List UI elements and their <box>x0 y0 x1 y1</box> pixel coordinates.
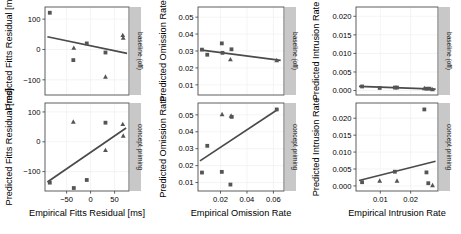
panel-intrusion-priming: 0.0000.0050.0100.0150.0200.010.02concept… <box>311 98 453 218</box>
y-tick-label: 0.015 <box>333 31 352 40</box>
data-point-square <box>427 181 431 185</box>
data-point-square <box>228 183 232 187</box>
plot-background <box>356 7 438 95</box>
y-axis-title: Predicted Fitts Residual [ms] <box>4 89 14 206</box>
y-tick-label: 0.05 <box>178 13 193 22</box>
data-point-square <box>393 170 397 174</box>
panel-fitts-priming: −1000100−50050concept primingPredicted F… <box>4 89 145 218</box>
panel-omission-baseline: 0.010.020.030.040.05baseline (off)Predic… <box>158 0 299 102</box>
figure-panel-grid: −1000100baseline (off)Predicted Fitts Re… <box>0 0 461 234</box>
data-point-square <box>220 41 224 45</box>
y-tick-label: 0.010 <box>333 49 352 58</box>
plot-background <box>45 103 129 191</box>
data-point-square <box>205 144 209 148</box>
data-point-square <box>71 58 75 62</box>
data-point-square <box>220 170 224 174</box>
y-tick-label: 0.015 <box>333 131 352 140</box>
y-tick-label: −100 <box>23 167 40 176</box>
y-tick-label: 0 <box>36 137 40 146</box>
panel-column-svg: 0.010.020.030.040.05baseline (off)Predic… <box>154 0 308 234</box>
y-axis-title: Predicted Omission Rate <box>158 0 168 102</box>
data-point-square <box>425 170 429 174</box>
x-tick-label: 0 <box>88 195 92 204</box>
x-tick-label: 0.06 <box>266 195 281 204</box>
y-tick-label: 100 <box>28 15 41 24</box>
y-tick-label: 0.020 <box>333 12 352 21</box>
data-point-square <box>395 86 399 90</box>
y-axis-title: Predicted Omission Rate <box>158 96 168 198</box>
y-tick-label: 0.04 <box>178 127 193 136</box>
y-axis-title: Predicted Intrusion Rate <box>311 2 321 101</box>
y-tick-label: 0.02 <box>178 161 193 170</box>
y-tick-label: 0.02 <box>178 64 193 73</box>
y-tick-label: 0.03 <box>178 144 193 153</box>
strip-label-concept-priming: concept priming <box>136 124 144 171</box>
strip-label-baseline: baseline (off) <box>291 32 299 70</box>
data-point-square <box>104 121 108 125</box>
data-point-square <box>229 47 233 51</box>
data-point-square <box>361 85 365 89</box>
y-tick-label: 0.01 <box>178 81 193 90</box>
panel-omission-priming: 0.010.020.030.040.050.020.040.06concept … <box>158 96 299 218</box>
data-point-square <box>423 108 427 112</box>
x-axis-title: Empirical Intrusion Rate <box>349 208 447 218</box>
y-tick-label: 0.000 <box>333 86 352 95</box>
y-tick-label: 0.05 <box>178 111 193 120</box>
y-tick-label: −100 <box>23 76 40 85</box>
y-tick-label: 0.005 <box>333 68 352 77</box>
panel-column-svg: −1000100baseline (off)Predicted Fitts Re… <box>0 0 154 234</box>
y-tick-label: 0.04 <box>178 30 193 39</box>
y-tick-label: 100 <box>28 108 41 117</box>
panel-column-svg: 0.0000.0050.0100.0150.020baseline (off)P… <box>307 0 461 234</box>
y-tick-label: 0 <box>36 45 40 54</box>
y-tick-label: 0.020 <box>333 114 352 123</box>
plot-background <box>198 103 284 191</box>
data-point-square <box>220 51 224 55</box>
data-point-square <box>274 108 278 112</box>
data-point-square <box>104 51 108 55</box>
y-tick-label: 0.005 <box>333 165 352 174</box>
data-point-square <box>48 11 52 15</box>
data-point-square <box>85 178 89 182</box>
x-axis-title: Empirical Omission Rate <box>190 208 291 218</box>
strip-label-baseline: baseline (off) <box>136 32 144 70</box>
panel-column-1: −1000100baseline (off)Predicted Fitts Re… <box>0 0 154 234</box>
panel-fitts-baseline: −1000100baseline (off)Predicted Fitts Re… <box>4 0 144 109</box>
data-point-square <box>200 48 204 52</box>
x-tick-label: 0.04 <box>239 195 254 204</box>
x-tick-label: 0.01 <box>373 195 388 204</box>
data-point-square <box>361 180 365 184</box>
strip-label-concept-priming: concept priming <box>445 124 453 171</box>
x-tick-label: −50 <box>60 195 73 204</box>
y-axis-title: Predicted Intrusion Rate <box>311 98 321 197</box>
panel-column-2: 0.010.020.030.040.05baseline (off)Predic… <box>154 0 308 234</box>
x-tick-label: 0.02 <box>213 195 228 204</box>
data-point-square <box>205 53 209 57</box>
data-point-square <box>428 87 432 91</box>
data-point-square <box>85 42 89 46</box>
strip-label-concept-priming: concept priming <box>291 124 299 171</box>
x-axis-title: Empirical Fitts Residual [ms] <box>29 208 145 218</box>
data-point-square <box>48 181 52 185</box>
panel-column-3: 0.0000.0050.0100.0150.020baseline (off)P… <box>307 0 461 234</box>
x-tick-label: 0.02 <box>404 195 419 204</box>
strip-label-baseline: baseline (off) <box>445 32 453 70</box>
x-tick-label: 50 <box>110 195 118 204</box>
data-point-square <box>378 86 382 90</box>
panel-intrusion-baseline: 0.0000.0050.0100.0150.020baseline (off)P… <box>311 2 453 101</box>
y-tick-label: 0.010 <box>333 148 352 157</box>
y-tick-label: 0.01 <box>178 178 193 187</box>
y-tick-label: 0.03 <box>178 47 193 56</box>
data-point-square <box>200 171 204 175</box>
data-point-square <box>72 186 76 190</box>
y-tick-label: 0.000 <box>333 182 352 191</box>
